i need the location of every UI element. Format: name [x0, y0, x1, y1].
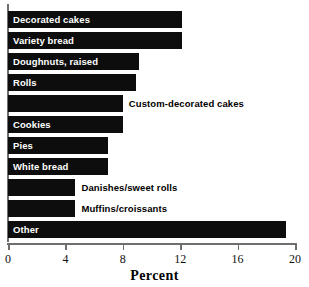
bar-row: White bread	[8, 158, 295, 175]
bar-chart: Decorated cakesVariety breadDoughnuts, r…	[0, 0, 309, 287]
x-axis-tick-label: 20	[289, 252, 301, 267]
bar-category-label: White bread	[13, 158, 68, 175]
x-axis-tick-label: 4	[62, 252, 68, 267]
bar-category-label: Rolls	[13, 74, 37, 91]
bar-row: Other	[8, 221, 295, 238]
bar-category-label: Custom-decorated cakes	[129, 95, 244, 112]
bar-category-label: Variety bread	[13, 32, 74, 49]
bar	[8, 179, 75, 196]
bar-category-label: Doughnuts, raised	[13, 53, 98, 70]
bar-row: Custom-decorated cakes	[8, 95, 295, 112]
bar-category-label: Pies	[13, 137, 33, 154]
bar-row: Decorated cakes	[8, 11, 295, 28]
x-axis-tick-label: 16	[232, 252, 244, 267]
bar-row: Pies	[8, 137, 295, 154]
bar	[8, 200, 75, 217]
x-axis-tick	[65, 243, 67, 250]
bar	[8, 221, 286, 238]
x-axis-line	[7, 243, 296, 245]
bar-row: Muffins/croissants	[8, 200, 295, 217]
x-axis-title: Percent	[0, 268, 309, 284]
bar-category-label: Muffins/croissants	[81, 200, 167, 217]
x-axis-tick-label: 12	[174, 252, 186, 267]
bar-category-label: Other	[13, 221, 39, 238]
bar-category-label: Cookies	[13, 116, 51, 133]
bar-row: Danishes/sweet rolls	[8, 179, 295, 196]
x-axis-tick	[295, 243, 297, 250]
bar-row: Variety bread	[8, 32, 295, 49]
x-axis-tick-label: 0	[5, 252, 11, 267]
x-axis-tick	[238, 243, 240, 250]
x-axis-tick	[180, 243, 182, 250]
plot-area: Decorated cakesVariety breadDoughnuts, r…	[0, 0, 309, 243]
x-axis-tick	[8, 243, 10, 250]
bar-row: Cookies	[8, 116, 295, 133]
bar-row: Rolls	[8, 74, 295, 91]
x-axis-tick	[123, 243, 125, 250]
bar-category-label: Danishes/sweet rolls	[81, 179, 177, 196]
bar-category-label: Decorated cakes	[13, 11, 90, 28]
bar-row: Doughnuts, raised	[8, 53, 295, 70]
x-axis-tick-label: 8	[120, 252, 126, 267]
bar	[8, 95, 123, 112]
